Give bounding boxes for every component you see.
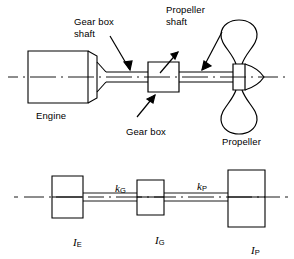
leader-gear-box-shaft bbox=[110, 36, 132, 70]
label-gear-box: Gear box bbox=[126, 126, 166, 137]
symbol-i-e: IE bbox=[62, 224, 82, 259]
symbol-i-g: IG bbox=[144, 222, 165, 259]
label-propeller-shaft-line2: shaft bbox=[166, 16, 187, 27]
symbol-i-p-sub: P bbox=[255, 248, 260, 257]
leader-propeller-shaft bbox=[202, 32, 222, 70]
symbol-i-p: IP bbox=[240, 232, 260, 259]
label-propeller: Propeller bbox=[222, 136, 261, 147]
label-engine: Engine bbox=[36, 110, 66, 121]
symbol-k-p-sub: P bbox=[202, 184, 207, 193]
symbol-i-g-sub: G bbox=[159, 238, 165, 247]
propeller-blade-lower bbox=[221, 90, 257, 134]
symbol-k-g-sub: G bbox=[120, 186, 126, 195]
symbol-i-e-sub: E bbox=[77, 240, 82, 249]
propeller-blade-upper bbox=[221, 20, 257, 64]
label-propeller-shaft-line1: Propeller bbox=[166, 4, 205, 15]
symbol-k-g: kG bbox=[104, 170, 126, 207]
symbol-k-p: kP bbox=[186, 168, 207, 205]
label-gear-box-shaft-line2: shaft bbox=[74, 28, 95, 39]
label-gear-box-shaft-line1: Gear box bbox=[74, 16, 114, 27]
leader-gear-box-label bbox=[137, 95, 155, 117]
inertia-disc-propeller bbox=[228, 170, 265, 227]
engine-output-taper bbox=[97, 62, 106, 92]
